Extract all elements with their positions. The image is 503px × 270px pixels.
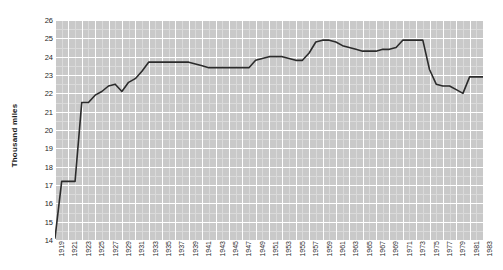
y-tick-label: 25 (7, 34, 53, 43)
x-tick-label: 1957 (312, 241, 319, 257)
x-tick-label: 1975 (433, 241, 440, 257)
y-tick-label: 14 (7, 236, 53, 245)
x-tick-label: 1955 (299, 241, 306, 257)
x-tick-label: 1939 (192, 241, 199, 257)
x-tick-label: 1919 (58, 241, 65, 257)
y-tick-label: 23 (7, 71, 53, 80)
x-tick-label: 1981 (473, 241, 480, 257)
x-tick-label: 1967 (379, 241, 386, 257)
x-tick-label: 1969 (392, 241, 399, 257)
plot-panel (55, 20, 483, 240)
x-tick-label: 1927 (112, 241, 119, 257)
y-tick-label: 21 (7, 107, 53, 116)
x-tick-label: 1951 (272, 241, 279, 257)
x-tick-label: 1971 (406, 241, 413, 257)
x-tick-label: 1947 (245, 241, 252, 257)
y-tick-label: 18 (7, 162, 53, 171)
x-tick-label: 1977 (446, 241, 453, 257)
x-tick-label: 1933 (152, 241, 159, 257)
x-tick-label: 1935 (165, 241, 172, 257)
chart-container: Thousand miles 2625242322212019181716151… (0, 0, 503, 270)
y-tick-label: 16 (7, 199, 53, 208)
y-tick-label: 20 (7, 126, 53, 135)
x-tick-label: 1983 (486, 241, 493, 257)
x-tick-label: 1921 (71, 241, 78, 257)
y-axis: 26252423222120191817161514 (0, 0, 53, 270)
x-tick-label: 1929 (125, 241, 132, 257)
x-tick-label: 1953 (285, 241, 292, 257)
line-series (55, 20, 483, 240)
series-path (55, 40, 483, 238)
x-tick-label: 1949 (259, 241, 266, 257)
x-tick-label: 1941 (205, 241, 212, 257)
y-tick-label: 17 (7, 181, 53, 190)
y-tick-label: 26 (7, 16, 53, 25)
x-tick-label: 1959 (326, 241, 333, 257)
y-tick-label: 15 (7, 217, 53, 226)
x-tick-label: 1979 (459, 241, 466, 257)
x-tick-label: 1965 (366, 241, 373, 257)
y-tick-label: 24 (7, 52, 53, 61)
x-tick-label: 1923 (85, 241, 92, 257)
y-tick-label: 19 (7, 144, 53, 153)
x-tick-label: 1963 (352, 241, 359, 257)
x-tick-label: 1937 (178, 241, 185, 257)
x-tick-label: 1961 (339, 241, 346, 257)
x-tick-label: 1931 (138, 241, 145, 257)
x-tick-label: 1943 (219, 241, 226, 257)
x-tick-label: 1945 (232, 241, 239, 257)
x-tick-label: 1973 (419, 241, 426, 257)
y-tick-label: 22 (7, 89, 53, 98)
x-axis: 1919192119231925192719291931193319351937… (55, 240, 483, 270)
x-tick-label: 1925 (98, 241, 105, 257)
